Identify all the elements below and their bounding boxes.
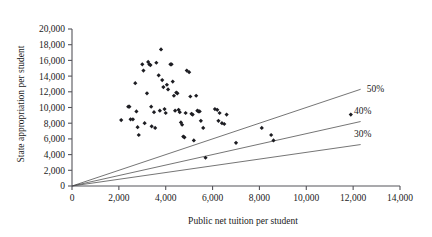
reference-line-label-30pct: 30% — [354, 129, 372, 139]
x-tick-label: 12,000 — [340, 193, 366, 203]
y-tick-label: 2,000 — [44, 166, 66, 176]
y-tick-label: 16,000 — [39, 56, 65, 66]
y-axis-title: State appropriation per student — [16, 45, 26, 162]
x-tick-label: 0 — [70, 193, 75, 203]
y-tick-label: 18,000 — [39, 40, 65, 50]
y-tick-label: 0 — [60, 181, 65, 191]
x-tick-label: 2,000 — [108, 193, 130, 203]
y-tick-label: 6,000 — [44, 134, 66, 144]
y-tick-label: 12,000 — [39, 87, 65, 97]
x-tick-label: 14,000 — [387, 193, 413, 203]
y-axis-tick-labels-group: 02,0004,0006,0008,00010,00012,00014,0001… — [39, 24, 65, 191]
y-tick-label: 10,000 — [39, 103, 65, 113]
y-tick-label: 8,000 — [44, 119, 66, 129]
chart-canvas: 30%40%50% 02,0004,0006,0008,00010,00012,… — [0, 0, 432, 237]
x-tick-label: 4,000 — [155, 193, 177, 203]
reference-line-label-50pct: 50% — [367, 84, 385, 94]
x-tick-label: 8,000 — [249, 193, 271, 203]
x-tick-label: 10,000 — [293, 193, 319, 203]
y-tick-label: 20,000 — [39, 24, 65, 34]
x-axis-title: Public net tuition per student — [188, 216, 298, 226]
x-tick-label: 6,000 — [202, 193, 224, 203]
y-tick-label: 4,000 — [44, 150, 66, 160]
reference-line-label-40pct: 40% — [354, 106, 372, 116]
y-tick-label: 14,000 — [39, 72, 65, 82]
scatter-chart: 30%40%50% 02,0004,0006,0008,00010,00012,… — [0, 0, 432, 237]
